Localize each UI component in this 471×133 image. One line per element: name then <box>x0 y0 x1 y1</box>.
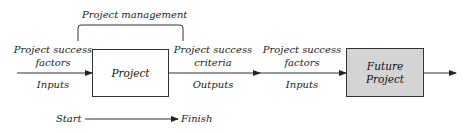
future-box-line2: Project <box>366 73 404 86</box>
left-input-below: Inputs <box>13 79 93 91</box>
middle-output-below: Outputs <box>173 79 253 91</box>
right-input-line1: Project success <box>262 44 342 56</box>
right-input-below: Inputs <box>262 79 342 91</box>
timeline-start: Start <box>56 113 84 125</box>
project-box: Project <box>92 49 169 97</box>
timeline-finish: Finish <box>181 113 221 125</box>
future-project-box: Future Project <box>346 48 424 97</box>
project-box-label: Project <box>112 67 150 80</box>
future-box-line1: Future <box>366 60 404 73</box>
project-management-bracket <box>78 25 183 41</box>
bracket-label: Project management <box>82 9 182 21</box>
middle-output-line1: Project success <box>173 44 253 56</box>
left-input-line2: factors <box>13 57 93 69</box>
right-input-line2: factors <box>262 57 342 69</box>
left-input-line1: Project success <box>13 44 93 56</box>
middle-output-line2: criteria <box>173 57 253 69</box>
